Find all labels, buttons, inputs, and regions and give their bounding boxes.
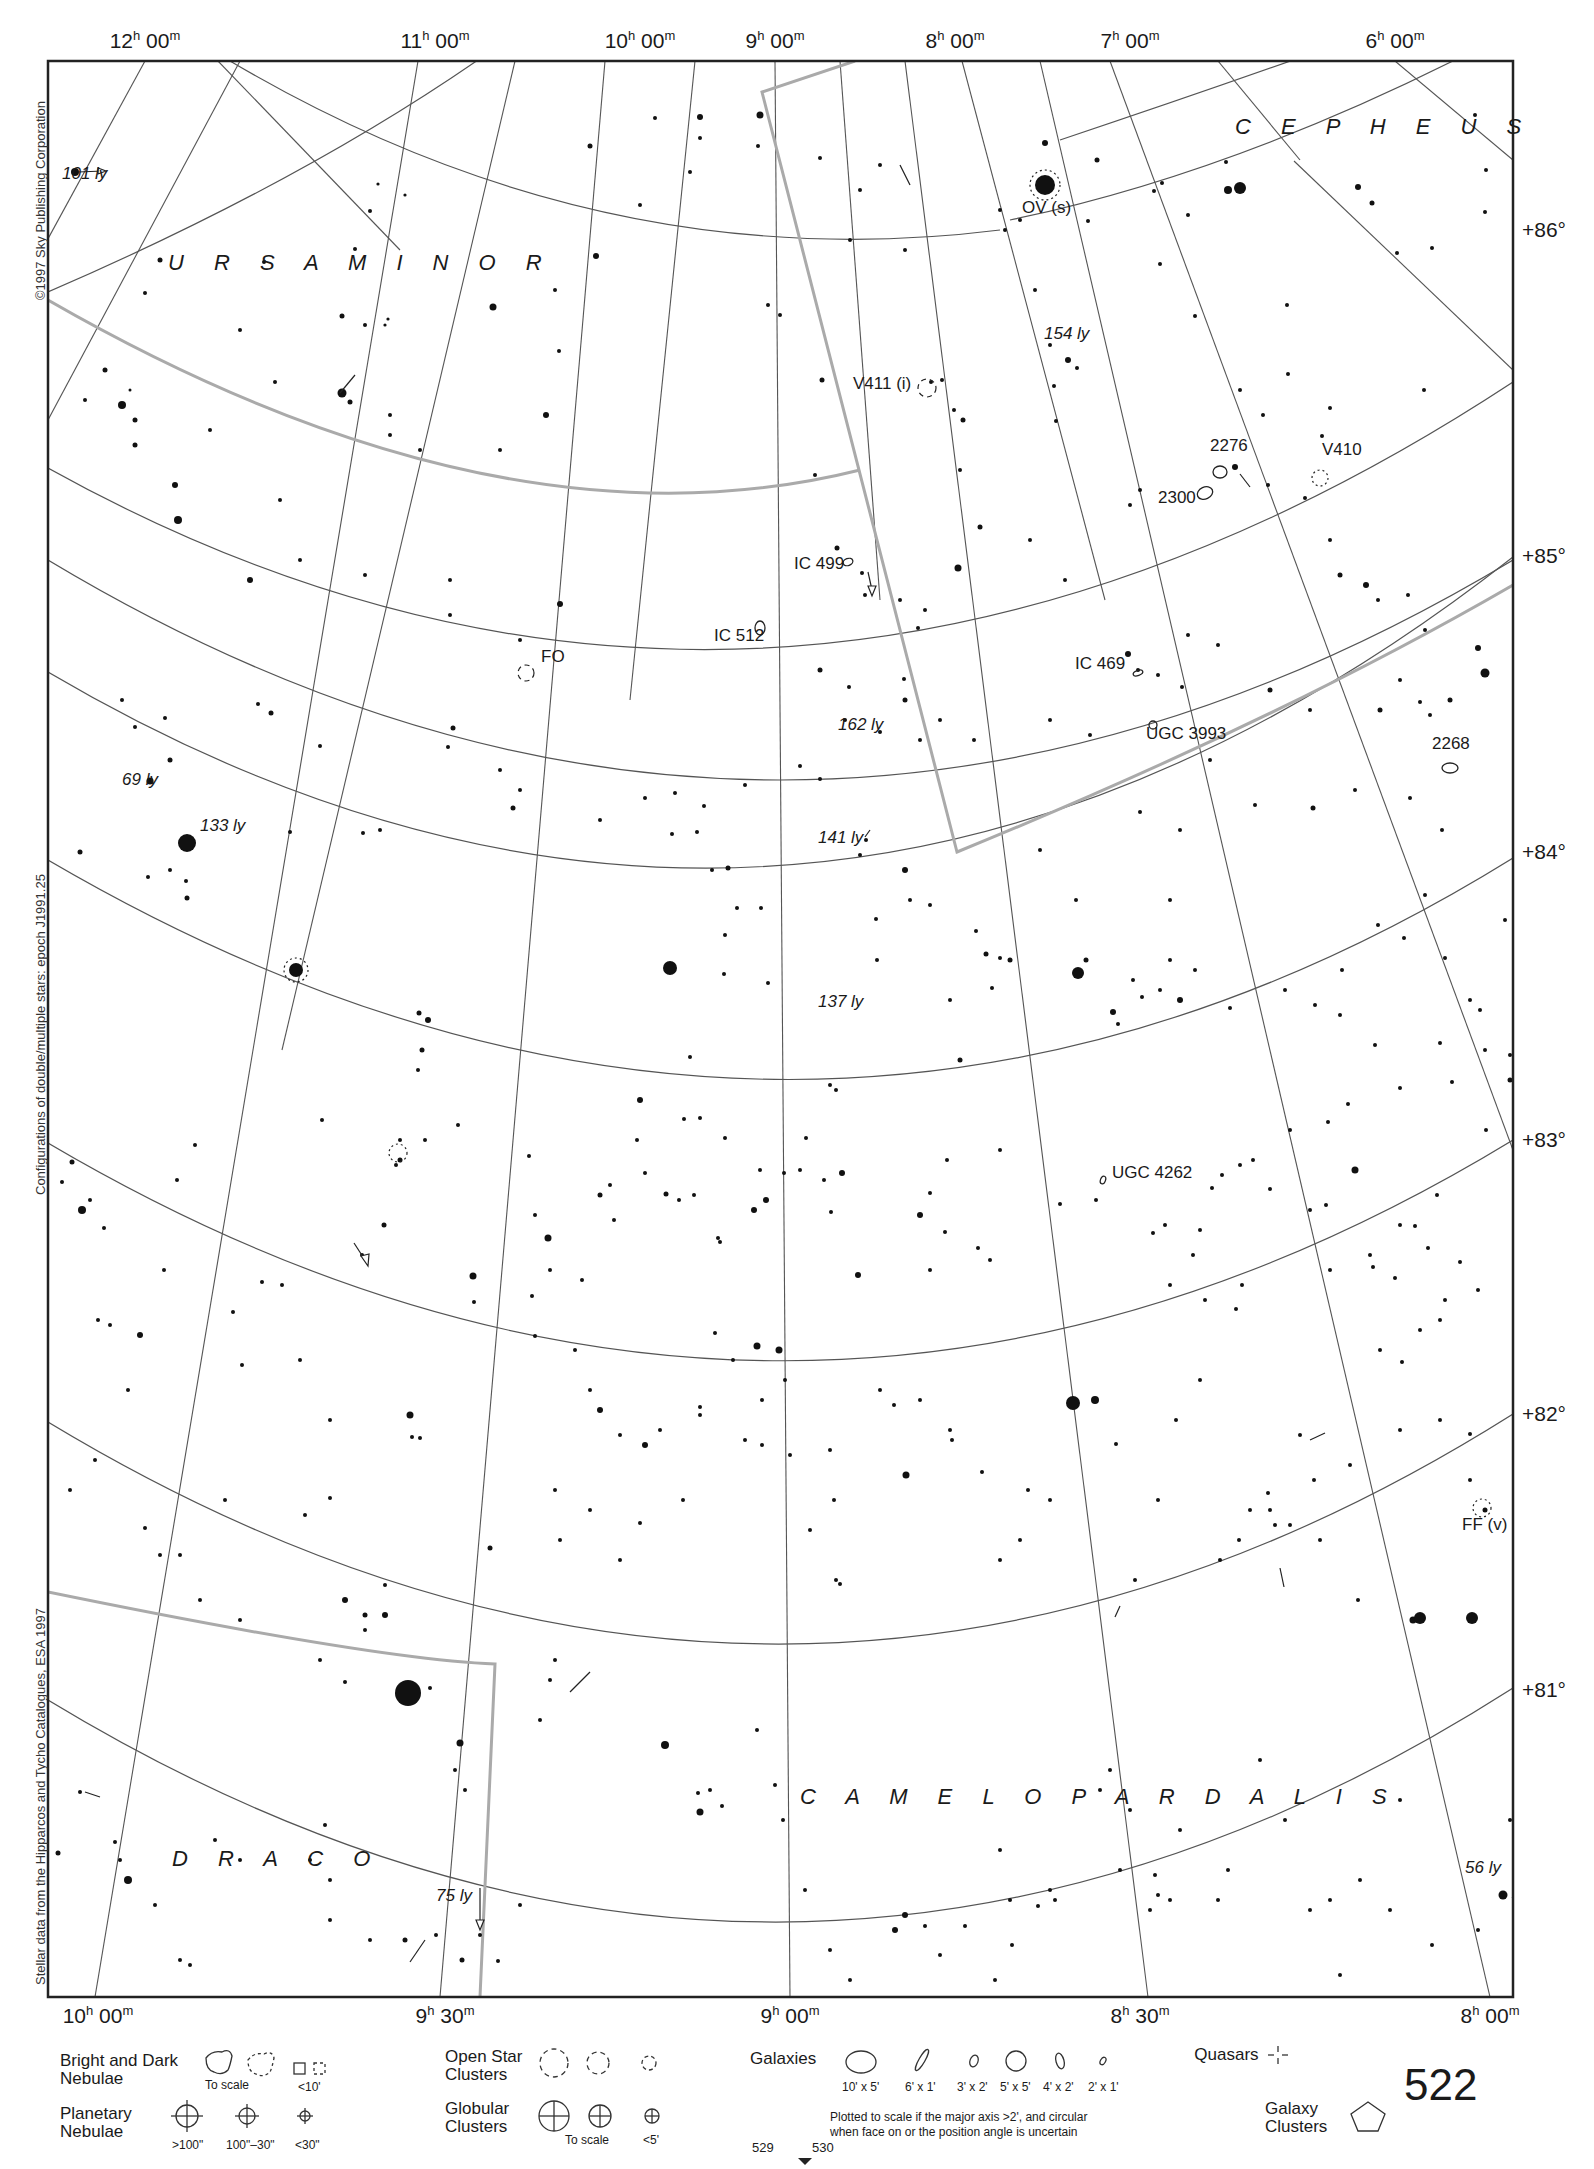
star <box>184 879 188 883</box>
star <box>340 314 345 319</box>
star <box>168 868 172 872</box>
star <box>143 1526 147 1530</box>
star <box>1363 582 1369 588</box>
star <box>958 1058 963 1063</box>
star <box>781 1818 785 1822</box>
star <box>1484 168 1488 172</box>
star <box>143 291 147 295</box>
star <box>695 830 699 834</box>
star <box>643 1171 647 1175</box>
star <box>133 418 138 423</box>
star <box>386 317 389 320</box>
star <box>240 1363 244 1367</box>
star <box>1156 1893 1160 1897</box>
nav-ref-right[interactable]: 530 <box>812 2140 834 2155</box>
star <box>1216 643 1220 647</box>
star <box>120 698 124 702</box>
star <box>185 896 190 901</box>
object-label: V411 (i) <box>853 374 911 394</box>
star <box>1346 1102 1350 1106</box>
nav-ref-left[interactable]: 529 <box>752 2140 774 2155</box>
star <box>710 868 714 872</box>
star <box>1356 1598 1360 1602</box>
star <box>976 1246 980 1250</box>
star <box>498 448 502 452</box>
star <box>188 1963 192 1967</box>
star <box>56 1851 61 1856</box>
object-label: 69 ly <box>122 770 158 790</box>
legend-title: Planetary <box>60 2105 132 2123</box>
object-label: 154 ly <box>1044 324 1089 344</box>
star <box>1008 1898 1012 1902</box>
star <box>1191 1253 1195 1257</box>
star <box>702 804 706 808</box>
star <box>945 1158 949 1162</box>
dec-tick-label: +82° <box>1522 1402 1566 1426</box>
star <box>418 1436 422 1440</box>
bright-star <box>1234 182 1246 194</box>
star <box>280 1283 284 1287</box>
star <box>382 1612 388 1618</box>
object-label: 2300 <box>1158 488 1196 508</box>
legend-size: 5' x 5' <box>1000 2080 1031 2094</box>
star <box>1483 1508 1488 1513</box>
star <box>759 906 763 910</box>
star <box>1160 181 1164 185</box>
star <box>1508 1818 1512 1822</box>
star <box>1153 1873 1157 1877</box>
star <box>698 1405 702 1409</box>
star <box>1168 1283 1172 1287</box>
object-label: IC 469 <box>1075 654 1125 674</box>
star <box>1418 1328 1422 1332</box>
star <box>553 288 557 292</box>
dec-tick-label: +83° <box>1522 1128 1566 1152</box>
star <box>1402 936 1406 940</box>
star <box>423 1138 427 1142</box>
star <box>1125 651 1131 657</box>
star <box>1266 1491 1270 1495</box>
star <box>1438 1041 1442 1045</box>
star <box>108 1323 112 1327</box>
legend-to-scale: To scale <box>565 2133 609 2147</box>
star <box>696 1791 700 1795</box>
star <box>1158 988 1162 992</box>
star <box>1443 1298 1447 1302</box>
star <box>847 685 851 689</box>
star <box>834 1578 838 1582</box>
star <box>1352 1167 1359 1174</box>
star <box>834 1088 838 1092</box>
star <box>1258 1758 1262 1762</box>
star <box>1193 968 1197 972</box>
star <box>1088 733 1092 737</box>
star <box>653 116 657 120</box>
star <box>448 613 452 617</box>
star <box>1003 228 1007 232</box>
star <box>818 668 823 673</box>
star <box>518 638 522 642</box>
star <box>1508 1053 1512 1057</box>
legend-size: 10' x 5' <box>842 2080 879 2094</box>
bright-star <box>289 963 303 977</box>
star <box>162 1268 166 1272</box>
star <box>1326 1120 1330 1124</box>
star <box>1131 978 1135 982</box>
star <box>643 796 647 800</box>
star <box>348 400 353 405</box>
star <box>1338 1013 1342 1017</box>
star <box>1261 413 1265 417</box>
star <box>453 1768 457 1772</box>
star <box>343 1680 347 1684</box>
star <box>490 304 497 311</box>
star <box>658 1428 662 1432</box>
object-label: 162 ly <box>838 715 883 735</box>
star <box>198 1598 202 1602</box>
star <box>673 791 677 795</box>
star <box>1475 645 1481 651</box>
star <box>1328 1268 1332 1272</box>
star <box>1110 1009 1116 1015</box>
legend-size: 4' x 2' <box>1043 2080 1074 2094</box>
constellation-name: C A M E L O P A R D A L I S <box>800 1784 1399 1810</box>
star <box>460 1958 465 1963</box>
star <box>635 1138 639 1142</box>
star <box>1152 189 1156 193</box>
